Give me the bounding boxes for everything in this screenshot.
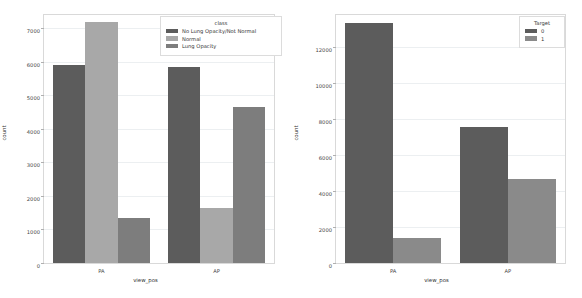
- y-axis-tick-label: 12000: [315, 47, 336, 53]
- bar: [460, 127, 508, 263]
- legend-swatch-icon: [166, 36, 178, 41]
- bar: [508, 179, 556, 263]
- legend-item[interactable]: 0: [525, 28, 559, 34]
- x-axis-tick-label: PA: [390, 263, 396, 274]
- chart-panel-target: count view_pos 0200040006000800010000120…: [291, 0, 582, 298]
- x-axis-label-left: view_pos: [133, 277, 158, 283]
- bar: [233, 107, 265, 264]
- legend-label: Lung Opacity: [182, 43, 216, 49]
- bar: [345, 23, 393, 263]
- bar: [200, 208, 232, 263]
- y-axis-tick-label: 8000: [319, 119, 336, 125]
- legend-label: Normal: [182, 36, 201, 42]
- figure-bar-charts: count view_pos 0100020003000400050006000…: [0, 0, 582, 298]
- legend-item[interactable]: Normal: [166, 36, 276, 42]
- y-axis-tick-label: 7000: [27, 28, 44, 34]
- y-axis-tick-label: 2000: [319, 227, 336, 233]
- plot-area-right: 020004000600080001000012000PAAP: [335, 14, 566, 264]
- y-axis-tick-label: 2000: [27, 196, 44, 202]
- chart-panel-class: count view_pos 0100020003000400050006000…: [0, 0, 291, 298]
- legend-swatch-icon: [166, 29, 178, 34]
- legend-label: No Lung Opacity/Not Normal: [182, 28, 256, 34]
- y-axis-tick-label: 4000: [27, 129, 44, 135]
- y-axis-tick-label: 3000: [27, 162, 44, 168]
- legend-item[interactable]: 1: [525, 36, 559, 42]
- bar: [393, 238, 441, 263]
- y-axis-tick-label: 6000: [27, 62, 44, 68]
- y-axis-tick-label: 4000: [319, 191, 336, 197]
- legend-item[interactable]: No Lung Opacity/Not Normal: [166, 28, 276, 34]
- legend-title-right: Target: [525, 20, 559, 26]
- bar: [53, 65, 85, 263]
- legend-label: 0: [541, 28, 544, 34]
- y-axis-label-left: count: [1, 125, 7, 140]
- bar: [118, 218, 150, 263]
- legend-swatch-icon: [166, 44, 178, 49]
- y-axis-tick-label: 10000: [315, 83, 336, 89]
- bar: [85, 22, 117, 263]
- legend-item[interactable]: Lung Opacity: [166, 43, 276, 49]
- bar: [168, 67, 200, 263]
- legend-left: class No Lung Opacity/Not Normal Normal …: [160, 16, 282, 56]
- x-axis-label-right: view_pos: [424, 277, 449, 283]
- y-axis-tick-label: 0: [37, 263, 44, 269]
- y-axis-label-right: count: [293, 125, 299, 140]
- y-axis-tick-label: 6000: [319, 155, 336, 161]
- x-axis-tick-label: AP: [213, 263, 220, 274]
- y-axis-tick-label: 0: [329, 263, 336, 269]
- legend-swatch-icon: [525, 36, 537, 41]
- gridline: [44, 62, 274, 63]
- legend-title-left: class: [166, 20, 276, 26]
- y-axis-tick-label: 1000: [27, 229, 44, 235]
- legend-label: 1: [541, 36, 544, 42]
- legend-swatch-icon: [525, 29, 537, 34]
- y-axis-tick-label: 5000: [27, 95, 44, 101]
- x-axis-tick-label: PA: [98, 263, 104, 274]
- legend-right: Target 0 1: [519, 16, 565, 48]
- x-axis-tick-label: AP: [504, 263, 511, 274]
